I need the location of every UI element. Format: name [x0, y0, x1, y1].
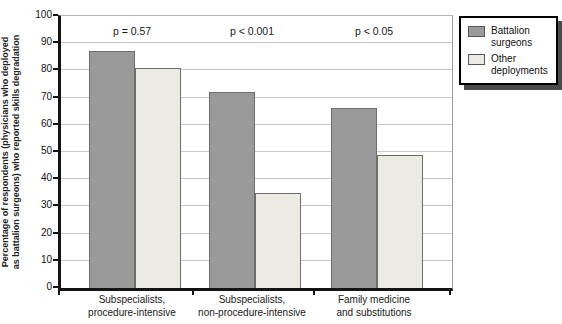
y-tick-mark-0 — [53, 286, 58, 288]
y-tick-label-90: 90 — [26, 36, 52, 48]
y-tick-mark-70 — [53, 96, 58, 98]
legend-label-2: Other deployments — [491, 53, 550, 77]
y-tick-label-10: 10 — [26, 254, 52, 266]
y-tick-mark-30 — [53, 204, 58, 206]
y-tick-mark-100 — [53, 14, 58, 16]
p-value-label-3: p < 0.05 — [329, 25, 419, 37]
legend: Battalion surgeonsOther deployments — [459, 16, 558, 85]
legend-swatch-2 — [468, 54, 485, 65]
y-axis-title-line-2: as battalion surgeons) who reported skil… — [11, 1, 22, 303]
bar-chart-figure: Percentage of respondents (physicians wh… — [0, 0, 562, 324]
y-tick-label-0: 0 — [26, 281, 52, 293]
y-tick-label-30: 30 — [26, 199, 52, 211]
p-value-label-1: p = 0.57 — [87, 25, 177, 37]
bar-battalion-surgeons-group-1 — [89, 51, 135, 288]
x-category-label-3-line-1: Family medicine — [299, 293, 449, 306]
p-value-label-2: p < 0.001 — [207, 25, 297, 37]
y-tick-mark-90 — [53, 41, 58, 43]
x-category-label-3: Family medicineand substitutions — [299, 293, 449, 319]
y-axis-title: Percentage of respondents (physicians wh… — [0, 1, 24, 303]
y-axis-title-line-1: Percentage of respondents (physicians wh… — [0, 1, 11, 303]
y-tick-label-50: 50 — [26, 145, 52, 157]
y-tick-mark-20 — [53, 232, 58, 234]
y-tick-mark-40 — [53, 177, 58, 179]
gridline-90 — [61, 42, 452, 43]
bar-other-deployments-group-1 — [135, 68, 181, 288]
y-tick-label-60: 60 — [26, 118, 52, 130]
y-tick-label-20: 20 — [26, 227, 52, 239]
y-tick-mark-60 — [53, 123, 58, 125]
legend-item-other-deployments: Other deployments — [468, 53, 550, 77]
legend-label-1: Battalion surgeons — [491, 25, 550, 49]
y-tick-mark-50 — [53, 150, 58, 152]
plot-area — [58, 15, 453, 291]
y-tick-mark-80 — [53, 68, 58, 70]
legend-swatch-1 — [468, 26, 485, 37]
x-tick-mark-3 — [449, 290, 451, 295]
y-tick-label-100: 100 — [26, 9, 52, 21]
bar-other-deployments-group-2 — [255, 193, 301, 288]
bar-battalion-surgeons-group-3 — [331, 108, 377, 288]
bar-battalion-surgeons-group-2 — [209, 92, 255, 288]
legend-item-battalion-surgeons: Battalion surgeons — [468, 25, 550, 49]
y-tick-label-40: 40 — [26, 172, 52, 184]
bar-other-deployments-group-3 — [377, 155, 423, 288]
y-tick-mark-10 — [53, 259, 58, 261]
y-tick-label-70: 70 — [26, 91, 52, 103]
y-tick-label-80: 80 — [26, 63, 52, 75]
x-category-label-3-line-2: and substitutions — [299, 306, 449, 319]
